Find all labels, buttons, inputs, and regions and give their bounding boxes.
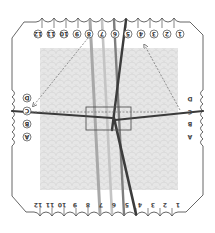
right-label: D [187,96,192,103]
bottom-label: 6 [112,202,116,209]
bottom-label: 10 [58,202,66,209]
top-label: 10 [60,31,68,38]
top-label: 6 [113,31,117,38]
top-label: 11 [47,31,55,38]
top-label: 7 [100,31,104,38]
bottom-label: 11 [46,202,54,209]
bottom-label: 5 [125,202,129,209]
top-label: 12 [34,31,42,38]
top-label: 5 [126,31,130,38]
left-label: C [24,108,29,115]
bottom-label: 2 [163,202,167,209]
left-label: A [24,134,29,141]
top-label: 8 [87,31,91,38]
bottom-label: 7 [99,202,103,209]
top-label: 1 [178,31,182,38]
bottom-label: 9 [73,202,77,209]
right-label: A [187,134,192,141]
left-label: D [24,95,29,102]
bottom-label: 3 [151,202,155,209]
top-label: 4 [139,31,143,38]
left-label: B [24,121,29,128]
top-label: 3 [152,31,156,38]
braiding-card-diagram: 12 11 10 9 8 7 6 5 4 3 2 1 12 11 10 9 8 … [0,0,215,233]
top-label: 2 [165,31,169,38]
right-label: B [187,121,192,128]
top-label: 9 [75,31,79,38]
right-label: C [187,109,192,116]
bottom-label: 4 [138,202,142,209]
bottom-label: 1 [176,202,180,209]
bottom-label: 12 [34,202,42,209]
bottom-label: 8 [86,202,90,209]
